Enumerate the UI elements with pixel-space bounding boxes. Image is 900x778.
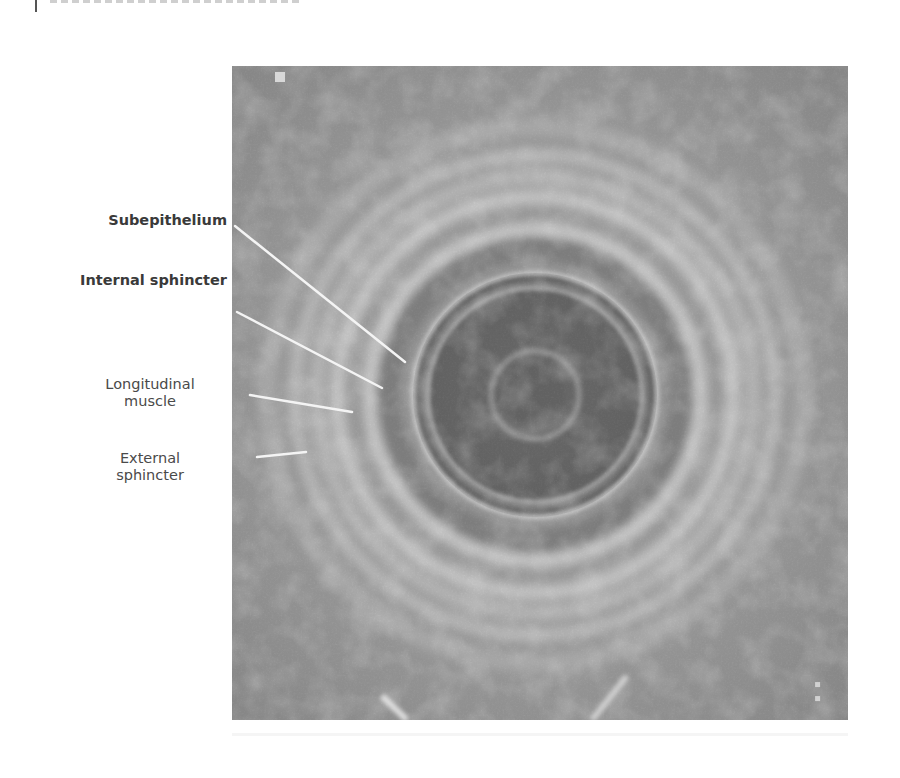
- label-external-sphincter-line1: External: [85, 450, 215, 467]
- label-longitudinal-muscle-line2: muscle: [75, 393, 225, 410]
- page-edge-bar: [35, 0, 37, 12]
- label-external-sphincter-line2: sphincter: [85, 467, 215, 484]
- label-external-sphincter: External sphincter: [85, 450, 215, 484]
- ultrasound-figure: [232, 66, 848, 720]
- clipped-header-text: [50, 0, 310, 3]
- rotated-scale-text-icon: ▪ ▪: [812, 645, 826, 705]
- label-longitudinal-muscle: Longitudinal muscle: [75, 376, 225, 410]
- label-subepithelium: Subepithelium: [75, 212, 227, 229]
- square-marker-icon: [275, 72, 285, 82]
- label-internal-sphincter: Internal sphincter: [12, 272, 227, 289]
- label-longitudinal-muscle-line1: Longitudinal: [75, 376, 225, 393]
